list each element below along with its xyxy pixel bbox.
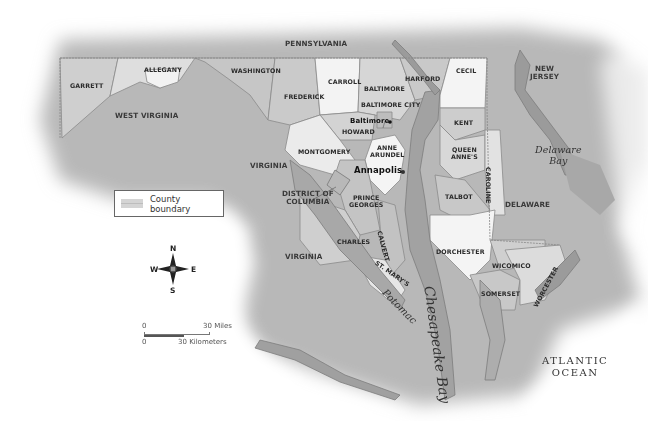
label-baltimore-city: BALTIMORE CITY <box>361 101 420 108</box>
label-queen-annes: QUEEN ANNE'S <box>451 146 478 160</box>
label-howard: HOWARD <box>342 128 375 135</box>
compass-w: W <box>150 265 158 274</box>
scale-km-zero: 0 <box>142 338 146 346</box>
label-baltimore: BALTIMORE <box>364 85 405 92</box>
label-atlantic-ocean: ATLANTIC OCEAN <box>542 355 608 378</box>
label-delaware: DELAWARE <box>505 201 550 209</box>
label-new-jersey: NEW JERSEY <box>530 65 559 82</box>
compass-n: N <box>170 244 176 253</box>
scale-km-bar <box>144 335 184 337</box>
label-delaware-bay: Delaware Bay <box>535 145 582 167</box>
legend-county-boundary-label: County boundary <box>150 194 223 214</box>
label-city-baltimore: Baltimore <box>350 117 389 125</box>
label-virginia-north: VIRGINIA <box>250 162 287 170</box>
label-talbot: TALBOT <box>445 193 473 200</box>
label-city-annapolis: Annapolis <box>354 166 402 176</box>
label-carroll: CARROLL <box>328 78 361 85</box>
label-charles: CHARLES <box>337 238 370 245</box>
legend: County boundary <box>114 190 224 217</box>
label-cecil: CECIL <box>456 67 476 74</box>
label-caroline: CAROLINE <box>485 167 492 203</box>
label-garrett: GARRETT <box>70 82 103 89</box>
scale-km-label: 30 Kilometers <box>178 338 227 346</box>
scale-miles-label: 30 Miles <box>203 322 232 330</box>
label-harford: HARFORD <box>405 75 440 82</box>
label-west-virginia: WEST VIRGINIA <box>115 112 178 120</box>
compass-e: E <box>191 265 196 274</box>
label-allegany: ALLEGANY <box>144 66 182 73</box>
scale-bar: 0 30 Miles 0 30 Kilometers <box>142 322 237 352</box>
label-washington: WASHINGTON <box>231 67 281 74</box>
scale-miles-zero: 0 <box>142 322 146 330</box>
label-pennsylvania: PENNSYLVANIA <box>285 40 347 48</box>
compass-s: S <box>170 286 175 295</box>
label-district-of-columbia: DISTRICT OF COLUMBIA <box>282 190 334 207</box>
label-kent: KENT <box>454 119 473 126</box>
label-somerset: SOMERSET <box>481 290 520 297</box>
label-prince-georges: PRINCE GEORGES <box>349 194 383 208</box>
label-dorchester: DORCHESTER <box>436 248 485 255</box>
label-wicomico: WICOMICO <box>492 262 531 269</box>
county-boundary-swatch <box>121 199 143 208</box>
label-frederick: FREDERICK <box>284 93 325 100</box>
compass-rose: N S E W <box>148 244 198 294</box>
label-virginia-south: VIRGINIA <box>285 253 322 261</box>
label-anne-arundel: ANNE ARUNDEL <box>370 144 404 158</box>
label-montgomery: MONTGOMERY <box>298 148 350 155</box>
